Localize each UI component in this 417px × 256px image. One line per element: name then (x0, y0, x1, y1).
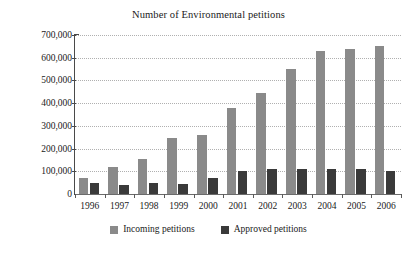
legend-item-approved[interactable]: Approved petitions (221, 224, 307, 235)
y-axis-tick-label: 700,000 (4, 30, 72, 40)
x-axis-tick-mark (134, 194, 135, 198)
chart-legend: Incoming petitionsApproved petitions (0, 224, 417, 235)
y-axis-labels: 0100,000200,000300,000400,000500,000600,… (0, 0, 72, 256)
bar-incoming-2004 (316, 51, 326, 194)
legend-swatch-icon (221, 226, 229, 234)
x-axis-label-1998: 1998 (134, 200, 164, 212)
bar-incoming-1996 (79, 178, 89, 194)
y-axis-tick-label: 500,000 (4, 75, 72, 85)
bar-group (105, 35, 135, 194)
y-axis-tick-mark (72, 35, 76, 36)
bar-group (371, 35, 401, 194)
x-axis-tick-mark (342, 194, 343, 198)
bar-approved-2003 (297, 169, 307, 194)
plot-area (75, 35, 401, 194)
bar-group (253, 35, 283, 194)
legend-item-incoming[interactable]: Incoming petitions (110, 224, 195, 235)
bar-incoming-2003 (286, 69, 296, 194)
legend-swatch-icon (110, 226, 118, 234)
bar-group (282, 35, 312, 194)
bar-incoming-1999 (167, 138, 177, 194)
x-axis-tick-mark (282, 194, 283, 198)
bar-approved-2005 (356, 169, 366, 194)
bar-group (342, 35, 372, 194)
y-axis-tick-label: 200,000 (4, 144, 72, 154)
y-axis-tick-label: 0 (4, 189, 72, 199)
bar-incoming-2001 (227, 108, 237, 194)
x-axis-tick-mark (194, 194, 195, 198)
x-axis-tick-mark (164, 194, 165, 198)
x-axis-tick-mark (253, 194, 254, 198)
bar-incoming-2005 (345, 49, 355, 194)
x-axis-label-2000: 2000 (194, 200, 224, 212)
x-axis-label-2002: 2002 (253, 200, 283, 212)
bar-incoming-1998 (138, 159, 148, 194)
bar-group (194, 35, 224, 194)
bar-approved-1996 (90, 183, 100, 194)
bar-group (223, 35, 253, 194)
y-axis-tick-mark (72, 58, 76, 59)
y-axis-tick-mark (72, 126, 76, 127)
y-axis-tick-mark (72, 171, 76, 172)
bar-incoming-1997 (108, 167, 118, 194)
legend-label: Approved petitions (234, 224, 307, 235)
x-axis-label-1999: 1999 (164, 200, 194, 212)
bar-group (75, 35, 105, 194)
bar-approved-2001 (238, 171, 248, 194)
x-axis-label-2005: 2005 (342, 200, 372, 212)
bar-group (164, 35, 194, 194)
x-axis-label-2003: 2003 (282, 200, 312, 212)
y-axis-tick-label: 300,000 (4, 121, 72, 131)
y-axis-tick-label: 100,000 (4, 166, 72, 176)
bar-approved-1997 (119, 185, 129, 194)
x-axis-label-1996: 1996 (75, 200, 105, 212)
legend-label: Incoming petitions (123, 224, 195, 235)
x-axis-tick-mark (223, 194, 224, 198)
bar-approved-2002 (267, 169, 277, 194)
bar-approved-1998 (149, 183, 159, 194)
x-axis-tick-mark (371, 194, 372, 198)
bar-incoming-2002 (256, 93, 266, 194)
bar-incoming-2000 (197, 135, 207, 195)
y-axis-tick-label: 400,000 (4, 98, 72, 108)
y-axis-tick-label: 600,000 (4, 53, 72, 63)
x-axis-tick-mark (75, 194, 76, 198)
y-axis-tick-mark (72, 80, 76, 81)
bar-approved-2000 (208, 178, 218, 194)
bar-approved-2004 (327, 169, 337, 194)
y-axis-tick-mark (72, 103, 76, 104)
x-axis-label-2006: 2006 (371, 200, 401, 212)
x-axis-tick-mark (312, 194, 313, 198)
y-axis-tick-mark (72, 149, 76, 150)
environmental-petitions-chart: Number of Environmental petitions 0100,0… (0, 0, 417, 256)
x-axis-tick-mark (105, 194, 106, 198)
bar-group (312, 35, 342, 194)
bar-incoming-2006 (375, 46, 385, 194)
x-axis-label-2001: 2001 (223, 200, 253, 212)
x-axis-label-1997: 1997 (105, 200, 135, 212)
bar-group (134, 35, 164, 194)
x-axis-tick-mark (401, 194, 402, 198)
bar-approved-2006 (386, 171, 396, 194)
x-axis-label-2004: 2004 (312, 200, 342, 212)
x-axis-baseline (75, 194, 401, 195)
bar-approved-1999 (178, 184, 188, 194)
